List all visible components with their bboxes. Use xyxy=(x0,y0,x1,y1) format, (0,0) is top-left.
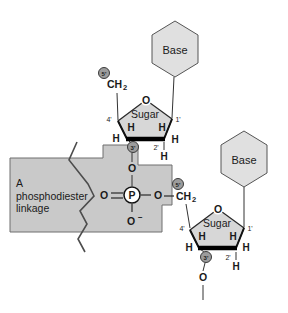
callout-line-3: linkage xyxy=(16,202,49,214)
continuation-oxygen: O xyxy=(199,271,207,283)
sugar1-label: Sugar xyxy=(131,108,160,120)
phosphate-oxygen-top: O xyxy=(128,162,136,174)
oxygen-minus-charge: − xyxy=(138,213,143,222)
callout-line-1: A xyxy=(16,177,23,189)
sugar1-h-inner-left: H xyxy=(127,122,134,133)
sugar2-2prime-label: 2' xyxy=(225,254,230,261)
sugar1-h-inner-right: H xyxy=(158,122,165,133)
base2-label: Base xyxy=(231,154,256,166)
sugar2-1prime-label: 1' xyxy=(247,225,252,232)
base1-label: Base xyxy=(162,44,187,56)
sugar2-ring-oxygen: O xyxy=(214,203,222,215)
sugar2-h-outer-left: H xyxy=(185,242,192,253)
five-prime-marker-2-label: 5' xyxy=(176,182,181,188)
ch2-1-subscript: 2 xyxy=(123,83,127,92)
sugar2-4prime-label: 4' xyxy=(179,225,184,232)
sugar2-h-inner-left: H xyxy=(198,231,205,242)
sugar2-label: Sugar xyxy=(203,217,232,229)
sugar2-h-below-c2: H xyxy=(232,261,239,272)
ch2-1-label: CH xyxy=(107,78,122,90)
phosphodiester-linkage-diagram: A phosphodiester linkage Base Base O Sug… xyxy=(0,0,288,313)
phosphorus-label: P xyxy=(128,189,135,201)
sugar1-h-outer-right: H xyxy=(171,134,178,145)
sugar1-ring-oxygen: O xyxy=(142,94,150,106)
sugar1-4prime-label: 4' xyxy=(106,116,111,123)
callout-line-2: phosphodiester xyxy=(16,190,88,202)
five-prime-marker-1-label: 5' xyxy=(102,71,107,77)
sugar1-h-outer-left: H xyxy=(112,133,119,144)
sugar2-h-inner-right: H xyxy=(229,231,236,242)
ch2-2-subscript: 2 xyxy=(192,195,196,204)
three-prime-marker-2-label: 3' xyxy=(204,255,209,261)
sugar2-h-outer-right: H xyxy=(242,242,249,253)
phosphate-oxygen-left: O xyxy=(100,189,108,201)
three-prime-marker-1-label: 3' xyxy=(131,145,136,151)
phosphate-oxygen-minus: O xyxy=(127,215,135,227)
phosphate-oxygen-right: O xyxy=(154,189,162,201)
ch2-2-label: CH xyxy=(176,190,191,202)
sugar1-h-below-c2: H xyxy=(160,151,167,162)
sugar1-1prime-label: 1' xyxy=(175,116,180,123)
sugar1-2prime-label: 2' xyxy=(153,144,158,151)
